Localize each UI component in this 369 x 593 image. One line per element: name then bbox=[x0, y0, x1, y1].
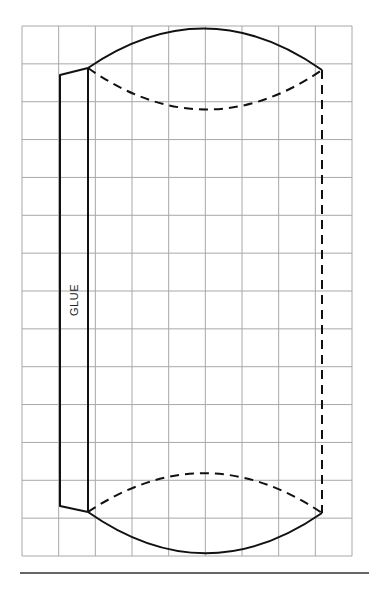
glue-label: GLUE bbox=[68, 284, 80, 316]
pillow-box-template: GLUE bbox=[0, 0, 369, 593]
